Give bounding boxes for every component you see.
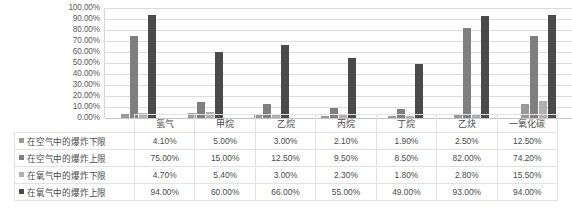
chart-data-table: 氢气甲烷乙烷丙烷丁烷乙炔一氧化碳 在空气中的爆炸下限4.10%5.00%3.00… [14,114,558,201]
bar[interactable] [148,15,156,118]
y-axis-tick-label: 30.00% [73,81,100,89]
bar[interactable] [415,64,423,118]
bar-group [372,8,439,118]
legend-label: 在氧气中的爆炸下限 [27,171,106,181]
bar-group [238,8,305,118]
table-cell: 12.50% [255,150,315,167]
table-cell: 15.00% [195,150,255,167]
legend-label: 在空气中的爆炸下限 [27,137,106,147]
table-cell: 60.00% [195,184,255,201]
legend-entry[interactable]: 在氧气中的爆炸下限 [15,167,135,184]
table-cell: 1.80% [376,167,436,184]
bar-chart-with-data-table: 100.00%90.00%80.00%70.00%60.00%50.00%40.… [0,0,572,210]
legend-entry[interactable]: 在空气中的爆炸上限 [15,150,135,167]
table-cell: 12.50% [497,133,557,150]
table-column-header: 氢气 [135,115,195,133]
y-axis-tick-label: 90.00% [73,15,100,23]
y-axis-tick-label: 80.00% [73,26,100,34]
table-body: 在空气中的爆炸下限4.10%5.00%3.00%2.10%1.90%2.50%1… [15,133,558,201]
bar-group [505,8,572,118]
bar[interactable] [281,45,289,118]
table-cell: 4.70% [135,167,195,184]
table-cell: 93.00% [437,184,497,201]
table-cell: 15.50% [497,167,557,184]
bar-group [305,8,372,118]
table-cell: 74.20% [497,150,557,167]
y-axis-tick-label: 10.00% [73,103,100,111]
table-cell: 94.00% [497,184,557,201]
bar[interactable] [130,36,138,119]
table-cell: 2.10% [316,133,376,150]
bar[interactable] [548,15,556,118]
legend-entry[interactable]: 在氧气中的爆炸上限 [15,184,135,201]
bar-group [172,8,239,118]
plot-area [104,8,572,118]
table-row: 在空气中的爆炸上限75.00%15.00%12.50%9.50%8.50%82.… [15,150,558,167]
table-cell: 82.00% [437,150,497,167]
bar-group [439,8,506,118]
legend-swatch-icon [19,155,24,160]
legend-label: 在空气中的爆炸上限 [27,154,106,164]
table-column-header: 丁烷 [376,115,436,133]
bars-layer [105,8,572,118]
y-axis-tick-label: 20.00% [73,92,100,100]
legend-label: 在氧气中的爆炸上限 [27,188,106,198]
table-column-header: 一氧化碳 [497,115,557,133]
plot-region: 100.00%90.00%80.00%70.00%60.00%50.00%40.… [0,8,572,118]
table-header: 氢气甲烷乙烷丙烷丁烷乙炔一氧化碳 [15,115,558,133]
y-axis: 100.00%90.00%80.00%70.00%60.00%50.00%40.… [0,8,104,118]
table-row: 在氧气中的爆炸下限4.70%5.40%3.00%2.30%1.80%2.80%1… [15,167,558,184]
legend-swatch-icon [19,138,24,143]
table-cell: 5.00% [195,133,255,150]
y-axis-tick-label: 50.00% [73,59,100,67]
table-cell: 8.50% [376,150,436,167]
table-cell: 3.00% [255,133,315,150]
y-axis-tick-label: 70.00% [73,37,100,45]
table-cell: 9.50% [316,150,376,167]
table-header-row: 氢气甲烷乙烷丙烷丁烷乙炔一氧化碳 [15,115,558,133]
table-cell: 2.30% [316,167,376,184]
bar[interactable] [481,16,489,118]
bar-group [105,8,172,118]
table-row: 在空气中的爆炸下限4.10%5.00%3.00%2.10%1.90%2.50%1… [15,133,558,150]
table-column-header: 乙炔 [437,115,497,133]
table-cell: 75.00% [135,150,195,167]
table-corner-cell [15,115,135,133]
table-column-header: 甲烷 [195,115,255,133]
legend-entry[interactable]: 在空气中的爆炸下限 [15,133,135,150]
bar[interactable] [463,28,471,118]
table-cell: 5.40% [195,167,255,184]
table-cell: 2.80% [437,167,497,184]
table-column-header: 乙烷 [255,115,315,133]
table-cell: 3.00% [255,167,315,184]
bar[interactable] [215,52,223,118]
legend-swatch-icon [19,189,24,194]
table-cell: 55.00% [316,184,376,201]
table-column-header: 丙烷 [316,115,376,133]
legend-swatch-icon [19,172,24,177]
table-cell: 1.90% [376,133,436,150]
y-axis-tick-label: 100.00% [68,4,100,12]
table-row: 在氧气中的爆炸上限94.00%60.00%66.00%55.00%49.00%9… [15,184,558,201]
table-cell: 2.50% [437,133,497,150]
bar[interactable] [348,58,356,119]
table-cell: 49.00% [376,184,436,201]
table-cell: 4.10% [135,133,195,150]
table-cell: 66.00% [255,184,315,201]
table-cell: 94.00% [135,184,195,201]
y-axis-tick-label: 60.00% [73,48,100,56]
y-axis-tick-label: 40.00% [73,70,100,78]
bar[interactable] [530,36,538,118]
